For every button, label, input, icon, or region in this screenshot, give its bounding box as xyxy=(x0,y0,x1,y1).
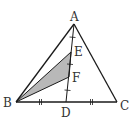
diagram-svg: A B C D E F xyxy=(0,0,136,130)
label-c: C xyxy=(120,99,129,113)
tick-ef xyxy=(67,64,73,65)
triangle-diagram: A B C D E F xyxy=(0,0,136,130)
side-ac xyxy=(74,24,117,102)
label-f: F xyxy=(72,71,80,85)
tick-fd xyxy=(65,90,71,91)
label-a: A xyxy=(69,10,79,24)
label-d: D xyxy=(61,106,71,120)
label-e: E xyxy=(74,45,83,59)
tick-ae xyxy=(70,37,76,38)
label-b: B xyxy=(3,96,12,110)
shaded-triangle-bef xyxy=(16,52,71,102)
